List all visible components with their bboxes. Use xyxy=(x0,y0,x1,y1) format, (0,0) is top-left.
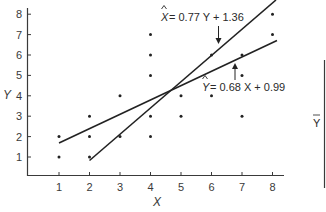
data-point xyxy=(210,54,213,57)
y-tick-label: 7 xyxy=(16,29,22,41)
x-tick-label: 3 xyxy=(117,181,123,193)
data-point xyxy=(149,74,152,77)
data-point xyxy=(119,135,122,138)
data-point xyxy=(119,94,122,97)
data-point xyxy=(241,74,244,77)
hat-mark xyxy=(162,6,167,10)
data-point xyxy=(180,115,183,118)
data-point xyxy=(88,115,91,118)
arrow-up-icon xyxy=(232,63,238,69)
data-point xyxy=(88,135,91,138)
y-bar-label: Y xyxy=(313,117,321,129)
data-point xyxy=(58,156,61,159)
y-tick-label: 4 xyxy=(16,90,22,102)
y-tick-label: 8 xyxy=(16,8,22,20)
x-axis-label: X xyxy=(152,195,162,209)
y-tick-label: 6 xyxy=(16,49,22,61)
eq-y-hat-symbol: Y xyxy=(202,81,210,93)
y-axis-label: Y xyxy=(3,88,12,102)
eq-x-on-y-text: = 0.77 Y + 1.36 xyxy=(169,11,244,23)
data-point xyxy=(88,156,91,159)
data-point xyxy=(58,135,61,138)
data-point xyxy=(241,115,244,118)
x-tick-label: 1 xyxy=(56,181,62,193)
data-point xyxy=(180,94,183,97)
x-tick-label: 8 xyxy=(269,181,275,193)
regression-chart: 1 2 3 4 5 6 7 8 1 2 3 4 5 6 7 8 Y X xyxy=(0,0,326,212)
y-tick-labels: 1 2 3 4 5 6 7 8 xyxy=(16,8,22,163)
data-point xyxy=(149,54,152,57)
x-tick-label: 5 xyxy=(178,181,184,193)
data-point xyxy=(149,135,152,138)
data-point xyxy=(271,13,274,16)
x-tick-label: 7 xyxy=(239,181,245,193)
eq-x-hat-symbol: X xyxy=(160,11,169,23)
data-point xyxy=(241,54,244,57)
equation-y-on-x: Y = 0.68 X + 0.99 xyxy=(202,63,285,93)
y-tick-label: 1 xyxy=(16,151,22,163)
y-tick-label: 3 xyxy=(16,110,22,122)
x-tick-labels: 1 2 3 4 5 6 7 8 xyxy=(56,181,276,193)
data-point xyxy=(271,33,274,36)
y-tick-label: 2 xyxy=(16,131,22,143)
y-tick-label: 5 xyxy=(16,69,22,81)
x-tick-label: 2 xyxy=(86,181,92,193)
data-point xyxy=(149,33,152,36)
x-tick-label: 6 xyxy=(208,181,214,193)
data-point xyxy=(149,115,152,118)
data-point xyxy=(210,94,213,97)
arrow-down-icon xyxy=(216,38,222,44)
x-tick-label: 4 xyxy=(147,181,153,193)
eq-y-on-x-text: = 0.68 X + 0.99 xyxy=(210,81,285,93)
